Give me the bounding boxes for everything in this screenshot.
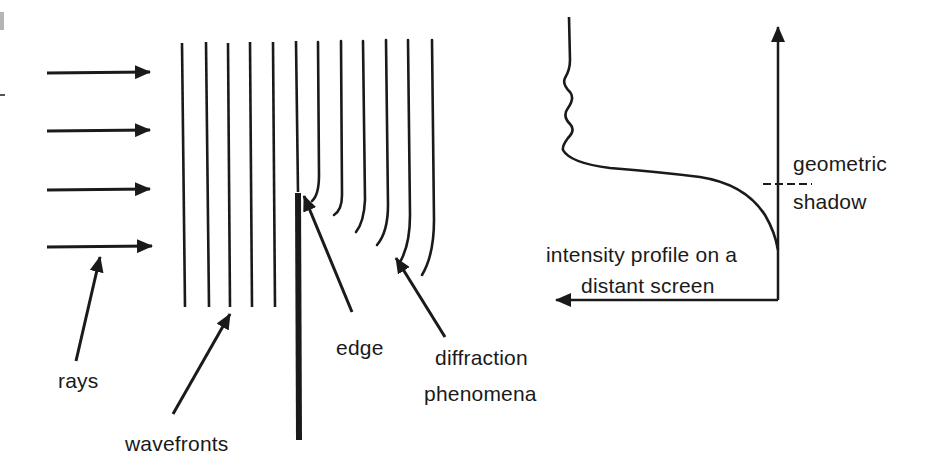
edge-label: edge xyxy=(336,337,384,358)
diffraction-diagram: rays wavefronts edge diffraction phenome… xyxy=(0,0,951,472)
edge-pointer xyxy=(304,196,352,312)
ray-arrow xyxy=(47,246,152,247)
ray-arrows xyxy=(47,72,152,247)
diffraction-pointer xyxy=(396,258,445,337)
rays-pointer xyxy=(76,257,100,361)
wavefronts-label: wavefronts xyxy=(125,433,229,454)
profile-label-line2: distant screen xyxy=(581,275,715,296)
rays-label: rays xyxy=(58,370,98,391)
profile-label-line1: intensity profile on a xyxy=(546,244,737,265)
ray-arrow xyxy=(47,72,150,73)
scan-artifact xyxy=(0,12,5,96)
label-pointers xyxy=(76,196,445,414)
geometric-shadow-label-line1: geometric xyxy=(793,153,887,174)
geometric-shadow-label-line2: shadow xyxy=(793,191,867,212)
wavefronts-pointer xyxy=(173,314,230,414)
ray-arrow xyxy=(47,130,150,131)
diffraction-label-line2: phenomena xyxy=(424,383,537,404)
diffracted-wavefronts xyxy=(312,40,434,275)
straight-wavefronts xyxy=(182,41,298,307)
ray-arrow xyxy=(47,189,150,190)
diffraction-label-line1: diffraction xyxy=(435,347,528,368)
edge-barrier xyxy=(298,193,299,440)
intensity-curve xyxy=(563,17,778,250)
